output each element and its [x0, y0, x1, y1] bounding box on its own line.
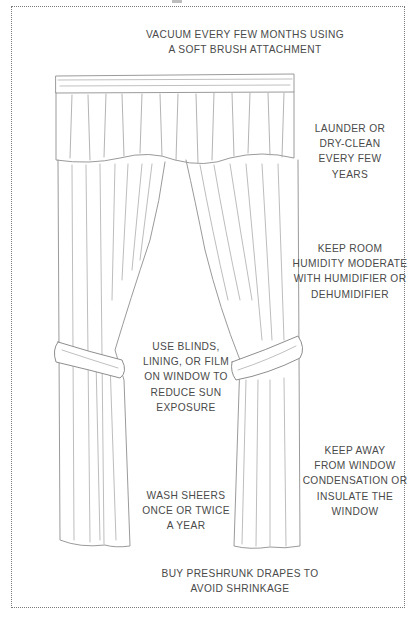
tip-line: exposure — [132, 400, 240, 415]
valance-icon — [56, 74, 294, 164]
tip-line: Use blinds, — [132, 339, 240, 354]
tip-line: dehumidifier — [288, 287, 412, 302]
tip-line: dry-clean — [300, 136, 400, 151]
tip-line: once or twice — [132, 503, 240, 518]
tip-line: on window to — [132, 369, 240, 384]
tip-line: window — [300, 504, 410, 519]
tip-line: from window — [300, 458, 410, 473]
tip-line: insulate the — [300, 489, 410, 504]
tip-line: Keep room — [288, 241, 412, 256]
tip-line: a year — [132, 518, 240, 533]
tip-condensation: Keep away from window condensation or in… — [300, 443, 410, 519]
tip-blinds: Use blinds, lining, or film on window to… — [132, 339, 240, 415]
tip-line: condensation or — [300, 473, 410, 488]
tip-line: Launder or — [300, 121, 400, 136]
tip-line: with humidifier or — [288, 271, 412, 286]
tip-line: reduce sun — [132, 385, 240, 400]
tip-humidity: Keep room humidity moderate with humidif… — [288, 241, 412, 302]
tip-line: Vacuum every few months using — [140, 27, 350, 42]
tip-line: lining, or film — [132, 354, 240, 369]
tip-line: a soft brush attachment — [140, 42, 350, 57]
tip-launder: Launder or dry-clean every few years — [300, 121, 400, 182]
tip-line: avoid shrinkage — [150, 581, 330, 596]
tip-line: humidity moderate — [288, 256, 412, 271]
tip-sheers: Wash sheers once or twice a year — [132, 488, 240, 534]
tip-line: Buy preshrunk drapes to — [150, 566, 330, 581]
tip-line: every few — [300, 151, 400, 166]
tip-line: Wash sheers — [132, 488, 240, 503]
tip-preshrunk: Buy preshrunk drapes to avoid shrinkage — [150, 566, 330, 596]
tip-line: years — [300, 167, 400, 182]
tip-vacuum: Vacuum every few months using a soft bru… — [140, 27, 350, 57]
tip-line: Keep away — [300, 443, 410, 458]
